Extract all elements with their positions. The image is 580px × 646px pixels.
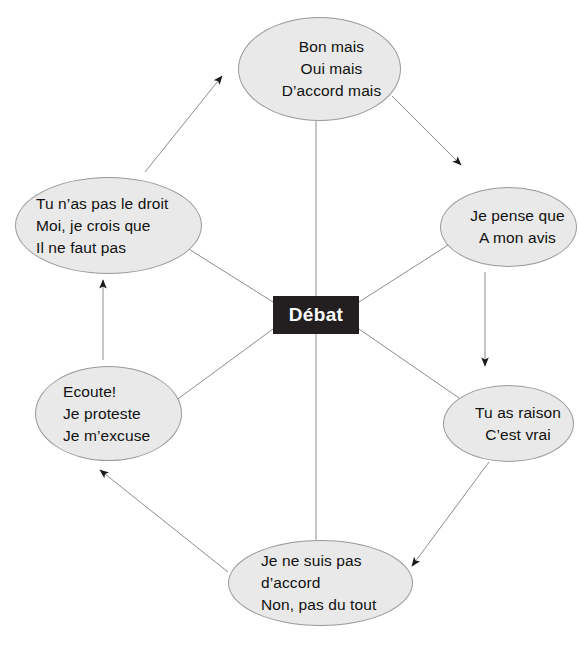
node-line: Oui mais	[277, 58, 363, 80]
debat-mind-map: Bon mais Oui mais D’accord mais Je pense…	[0, 0, 580, 646]
spoke-center-to-left-2	[171, 329, 273, 404]
node-line: Non, pas du tout	[229, 594, 376, 616]
node-tu-nas-pas-le-droit[interactable]: Tu n’as pas le droit Moi, je crois que I…	[15, 177, 202, 274]
node-line: Je m’excuse	[36, 425, 150, 447]
node-line: Il ne faut pas	[16, 237, 126, 259]
node-line: C’est vrai	[466, 424, 551, 446]
node-line: d’accord	[229, 572, 320, 594]
spoke-center-to-right-2	[359, 329, 459, 398]
node-tu-as-raison[interactable]: Tu as raison C’est vrai	[443, 385, 574, 462]
node-line: Je pense que	[452, 205, 564, 227]
center-node-label: Débat	[289, 304, 343, 326]
node-line: Tu n’as pas le droit	[16, 193, 168, 215]
node-line: Moi, je crois que	[16, 215, 151, 237]
node-je-pense-que[interactable]: Je pense que A mon avis	[440, 187, 577, 267]
node-line: Ecoute!	[36, 381, 116, 403]
arrow-right2-to-bottom	[412, 462, 489, 566]
node-je-ne-suis-pas-daccord[interactable]: Je ne suis pas d’accord Non, pas du tout	[228, 540, 413, 626]
node-line: Bon mais	[275, 36, 364, 58]
node-bon-mais[interactable]: Bon mais Oui mais D’accord mais	[238, 17, 401, 121]
arrow-bottom-to-left2	[100, 470, 228, 572]
arrow-left1-to-top	[145, 76, 222, 172]
node-ecoute[interactable]: Ecoute! Je proteste Je m’excuse	[35, 366, 182, 461]
node-line: A mon avis	[461, 227, 556, 249]
spoke-center-to-left-1	[176, 241, 273, 302]
node-line: Je proteste	[36, 403, 141, 425]
spoke-center-to-right-1	[359, 240, 456, 302]
arrow-top-to-right1	[392, 96, 461, 165]
node-line: D’accord mais	[258, 80, 382, 102]
center-node-debat[interactable]: Débat	[273, 296, 359, 334]
node-line: Je ne suis pas	[229, 550, 362, 572]
node-line: Tu as raison	[456, 402, 561, 424]
